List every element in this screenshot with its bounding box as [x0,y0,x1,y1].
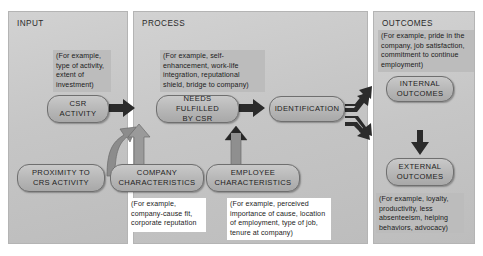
node-company-label: COMPANYCHARACTERISTICS [113,168,202,188]
arrow-internal-to-external [411,130,429,155]
node-employee-label: EMPLOYEECHARACTERISTICS [209,168,298,188]
node-external-outcomes[interactable]: EXTERNALOUTCOMES [386,158,454,186]
node-company-characteristics[interactable]: COMPANYCHARACTERISTICS [110,164,204,192]
node-internal-outcomes-line2: OUTCOMES [394,89,447,99]
arrow-identification-to-external [345,116,372,140]
node-csr-activity-line1: CSR [57,99,100,109]
node-external-outcomes-line2: OUTCOMES [394,172,447,182]
arrow-layer [0,0,483,256]
node-proximity-to-crs-activity[interactable]: PROXIMITY TOCRS ACTIVITY [17,164,105,192]
arrow-identification-to-internal [345,86,372,112]
node-proximity-line2: CRS ACTIVITY [29,178,93,188]
node-identification[interactable]: IDENTIFICATION [269,96,345,122]
diagram-canvas: INPUT PROCESS OUTCOMES (For example, typ… [0,0,483,256]
node-csr-activity-label: CSRACTIVITY [54,99,103,119]
node-csr-activity[interactable]: CSRACTIVITY [47,95,109,123]
node-csr-activity-line2: ACTIVITY [57,109,100,119]
node-proximity-line1: PROXIMITY TO [29,168,93,178]
node-company-line2: CHARACTERISTICS [116,178,199,188]
node-employee-characteristics[interactable]: EMPLOYEECHARACTERISTICS [206,164,300,192]
node-internal-outcomes-line1: INTERNAL [394,79,447,89]
node-employee-line1: EMPLOYEE [212,168,295,178]
node-internal-outcomes-label: INTERNALOUTCOMES [391,79,450,99]
node-external-outcomes-line1: EXTERNAL [394,162,447,172]
node-needs-fulfilled-line2: BY CSR [160,114,235,124]
node-internal-outcomes[interactable]: INTERNALOUTCOMES [386,76,454,102]
node-external-outcomes-label: EXTERNALOUTCOMES [391,162,450,182]
node-needs-fulfilled-label: NEEDS FULFILLEDBY CSR [157,94,238,124]
node-identification-label: IDENTIFICATION [272,104,343,114]
node-needs-fulfilled[interactable]: NEEDS FULFILLEDBY CSR [156,95,239,123]
node-company-line1: COMPANY [116,168,199,178]
node-proximity-label: PROXIMITY TOCRS ACTIVITY [26,168,96,188]
arrow-csr-to-needs [109,99,135,117]
node-employee-line2: CHARACTERISTICS [212,178,295,188]
node-needs-fulfilled-line1: NEEDS FULFILLED [160,94,235,114]
arrow-needs-to-identification [239,99,265,117]
